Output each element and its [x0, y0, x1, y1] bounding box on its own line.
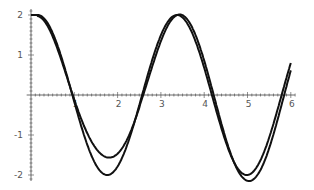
line-chart: 12345621-1-2 — [0, 0, 314, 190]
svg-text:1: 1 — [17, 50, 23, 60]
svg-text:-2: -2 — [14, 170, 23, 180]
svg-text:2: 2 — [17, 10, 23, 20]
svg-text:-1: -1 — [14, 130, 23, 140]
svg-text:6: 6 — [289, 99, 295, 109]
svg-text:4: 4 — [202, 99, 208, 109]
svg-text:2: 2 — [116, 99, 122, 109]
svg-text:3: 3 — [159, 99, 165, 109]
svg-text:5: 5 — [246, 99, 252, 109]
